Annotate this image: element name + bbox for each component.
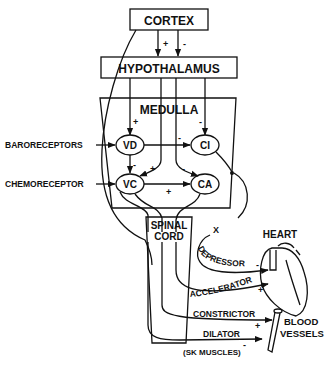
baroreceptors-label: BARORECEPTORS xyxy=(5,140,83,150)
sign-minus: - xyxy=(256,260,259,270)
vc-label: VC xyxy=(123,179,137,190)
cortex-box: CORTEX xyxy=(130,9,208,30)
vessels-label: VESSELS xyxy=(280,328,324,339)
sign-minus: - xyxy=(183,39,186,49)
cortex-label: CORTEX xyxy=(144,14,194,28)
hyp-to-vc-arrow xyxy=(140,78,161,176)
ca-label: CA xyxy=(198,179,212,190)
vc-center: VC xyxy=(116,174,144,194)
ci-label: CI xyxy=(200,140,210,151)
ci-center: CI xyxy=(191,135,219,155)
medulla-label: MEDULLA xyxy=(140,103,199,117)
vagus-line xyxy=(234,173,247,218)
hypothalamus-label: HYPOTHALAMUS xyxy=(118,62,219,76)
sign-plus: + xyxy=(163,39,168,49)
vagus-marker: X xyxy=(213,225,219,235)
cord-label: CORD xyxy=(154,231,183,242)
sign-plus: + xyxy=(150,164,155,174)
sign-plus: + xyxy=(133,117,138,127)
cardiovascular-control-diagram: CORTEX + - HYPOTHALAMUS MEDULLA + - + - … xyxy=(0,0,334,368)
heart-label: HEART xyxy=(263,229,297,240)
sign-minus: - xyxy=(133,160,136,170)
hyp-to-ca-arrow xyxy=(176,78,198,176)
sign-plus: + xyxy=(255,321,260,331)
heart-icon xyxy=(260,243,307,316)
accelerator-label: ACCELERATOR xyxy=(189,274,253,299)
spinal-label: SPINAL xyxy=(151,220,188,231)
sign-minus: - xyxy=(199,117,202,127)
sk-muscles-label: (SK MUSCLES) xyxy=(183,348,241,357)
synapse-dot xyxy=(230,171,234,175)
accelerator-text: ACCELERATOR xyxy=(189,274,253,299)
sign-minus: - xyxy=(182,164,185,174)
sign-plus: + xyxy=(166,187,171,197)
blood-label: BLOOD xyxy=(284,316,318,327)
ca-center: CA xyxy=(191,174,219,194)
chemoreceptor-label: CHEMORECEPTOR xyxy=(5,179,84,189)
vd-center: VD xyxy=(116,135,144,155)
ci-output-line xyxy=(216,152,232,172)
sign-minus: - xyxy=(243,340,246,350)
dilator-label: DILATOR xyxy=(203,329,240,339)
vd-label: VD xyxy=(123,140,137,151)
sign-minus: - xyxy=(178,133,181,143)
constrictor-label: CONSTRICTOR xyxy=(193,309,255,319)
